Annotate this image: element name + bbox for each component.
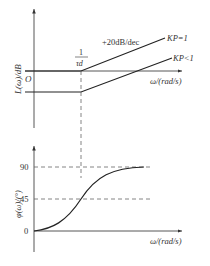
phase-y-label: φ(ω)/(°) — [13, 190, 23, 218]
tick-0: 0 — [24, 226, 28, 236]
phase-x-label: ω/(rad/s) — [150, 236, 182, 246]
slope-label: +20dB/dec — [102, 37, 140, 47]
phase-plot: 90 45 0 φ(ω)/(°) ω/(rad/s) — [13, 146, 182, 252]
curve-kp-equal-1 — [25, 38, 165, 71]
tick-90: 90 — [20, 162, 29, 172]
magnitude-plot: L(ω)/dB O ω/(rad/s) 1 τd +20dB/dec KP=1 … — [13, 9, 194, 178]
curve-label-kp-1: KP=1 — [166, 33, 188, 43]
magnitude-x-label: ω/(rad/s) — [150, 76, 182, 86]
curve-label-kp-lt-1: KP<1 — [172, 53, 194, 63]
origin-label: O — [25, 74, 32, 84]
magnitude-y-label: L(ω)/dB — [13, 64, 23, 95]
curve-kp-less-1 — [25, 58, 172, 92]
corner-denominator: τd — [76, 59, 84, 68]
corner-numerator: 1 — [79, 48, 83, 57]
bode-diagram: L(ω)/dB O ω/(rad/s) 1 τd +20dB/dec KP=1 … — [0, 0, 210, 266]
